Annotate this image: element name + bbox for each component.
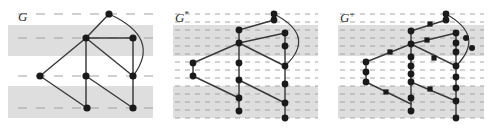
vertex-top [271,11,278,18]
vertex-mid-lower [236,95,243,102]
vertex-mid [82,72,89,79]
vertex-top-diag-sub [427,21,432,26]
vertex-left-lower [363,79,370,86]
vertex-right-upper [129,34,136,41]
panel-g-plus-label-superscript: + [349,9,354,19]
vertex-hub-upper [236,27,243,34]
vertex-hub-sub-4 [408,79,415,86]
panel-g-star-label: G* [175,10,189,24]
vertex-top-sub-1 [271,17,278,24]
vertex-hub-sub-1 [408,54,415,61]
panel-g-star-label-text: G [175,10,184,25]
vertex-left-upper [363,59,370,66]
vertex-left-upper [190,60,197,67]
vertex-mid-diag-sub [431,55,436,60]
panel-g-star: G* [165,0,330,129]
vertex-top [443,11,450,18]
vertex-right-upper-sub [282,43,289,50]
vertex-right-mid [453,63,460,70]
panel-g-plus-label: G+ [340,10,354,24]
vertex-hub [236,40,243,47]
vertex-hub-sub-3 [408,71,415,78]
vertex-mid [236,77,243,84]
vertex-hub-right-sub [424,37,429,42]
panel-g-plus: G+ [330,0,496,129]
panel-g-star-dash-grid [175,14,318,118]
vertex-left [363,69,370,76]
vertex-left [36,72,43,79]
vertex-arc-sub-2 [469,45,475,51]
panel-g-plus-label-text: G [340,10,349,25]
vertex-right-upper-b [453,49,460,56]
panel-g-label: G [18,10,27,23]
vertex-right-upper [453,30,460,37]
vertex-bottom-mid [236,108,243,115]
panel-g-label-text: G [18,9,27,24]
vertex-right-mid-sub [282,81,289,88]
vertex-right-mid [282,63,289,70]
vertex-right-mid-a [453,74,460,81]
vertex-hub-sub-2 [408,63,415,70]
vertex-right-upper-a [453,40,460,47]
vertex-arc-sub-1 [463,35,469,41]
vertex-hub-diag-sub [427,86,432,91]
panel-g-plus-canvas [330,0,496,129]
vertex-right-lower [282,100,289,107]
panel-g-star-label-superscript: * [184,9,189,19]
vertex-top [105,10,112,17]
panel-g-star-bands [173,25,318,118]
vertex-right-upper [282,30,289,37]
vertex-right-lower [453,98,460,105]
vertex-mid-upper [236,60,243,67]
vertex-right-mid [129,72,136,79]
vertex-hub [408,41,415,48]
graph-figure: GG*G+ [0,0,496,129]
vertex-bottom-right [129,104,136,111]
vertex-bottom-mid [83,104,90,111]
vertex-right-mid-b [453,85,460,92]
panel-g-star-canvas [165,0,330,129]
vertex-hub-left-sub [387,49,392,54]
vertex-mid-lower [408,95,415,102]
vertex-bottom-mid [408,108,415,115]
vertex-hub [82,34,89,41]
vertex-bottom-right [453,115,460,122]
band-2 [8,86,153,118]
vertex-left-diag-sub [383,89,388,94]
vertex-top-sub-1 [443,17,450,24]
panel-g: G [0,0,165,129]
vertex-bottom-right [282,115,289,122]
vertex-hub-upper [408,28,415,35]
vertex-left [190,73,197,80]
